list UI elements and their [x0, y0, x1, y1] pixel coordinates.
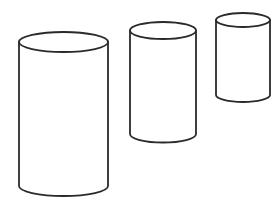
cylinders-figure: Three cylinders diagram Line drawing of … [0, 0, 278, 209]
cylinder-large [19, 32, 108, 196]
figure-canvas: Three cylinders diagram Line drawing of … [0, 0, 278, 209]
cylinder-large-body [19, 32, 108, 196]
cylinder-small [216, 13, 270, 102]
cylinder-medium-body [130, 22, 196, 143]
cylinder-medium [130, 22, 196, 143]
